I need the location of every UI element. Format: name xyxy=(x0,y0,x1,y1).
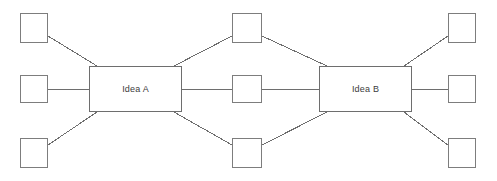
connector-line xyxy=(404,36,448,66)
connector-line xyxy=(262,112,327,145)
satellite-box-right-top[interactable] xyxy=(448,13,476,43)
satellite-box-left-middle[interactable] xyxy=(20,75,48,103)
satellite-box-left-top[interactable] xyxy=(20,13,48,43)
diagram-canvas: Idea AIdea B xyxy=(0,0,497,181)
satellite-box-center-bottom[interactable] xyxy=(232,138,262,168)
satellite-box-center-top[interactable] xyxy=(232,13,262,43)
idea-box-idea-b[interactable]: Idea B xyxy=(319,66,412,112)
connector-line xyxy=(174,112,232,145)
connector-line xyxy=(404,112,448,145)
satellite-box-right-middle[interactable] xyxy=(448,75,476,103)
satellite-box-right-bottom[interactable] xyxy=(448,138,476,168)
satellite-box-left-bottom[interactable] xyxy=(20,138,48,168)
idea-box-label: Idea A xyxy=(122,85,149,94)
idea-box-idea-a[interactable]: Idea A xyxy=(89,66,182,112)
satellite-box-center-middle[interactable] xyxy=(232,75,262,103)
connector-line xyxy=(48,112,97,145)
connector-line xyxy=(262,36,327,66)
idea-box-label: Idea B xyxy=(352,85,379,94)
connector-line xyxy=(174,36,232,66)
connector-line xyxy=(48,36,97,66)
